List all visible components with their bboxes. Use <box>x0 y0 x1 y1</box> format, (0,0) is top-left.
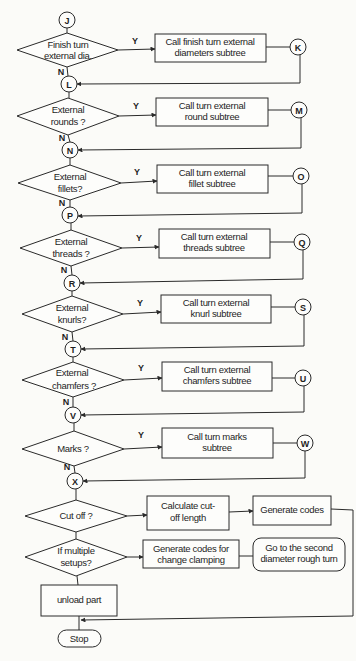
svg-text:Finish turn: Finish turn <box>47 39 88 50</box>
flowchart-canvas: J Finish turn external dia. Y Call finis… <box>0 0 356 661</box>
svg-text:Calculate cut-: Calculate cut- <box>161 500 215 511</box>
connector-w: W <box>297 435 313 451</box>
decision-multiple-setups: If multiple setups? <box>25 539 127 576</box>
svg-text:Generate codes for: Generate codes for <box>153 543 229 554</box>
svg-text:knurls?: knurls? <box>58 314 87 325</box>
no-label: N <box>62 332 69 342</box>
svg-text:External: External <box>56 302 89 313</box>
connector-m: M <box>291 102 307 118</box>
decision-cut-off: Cut off ? <box>25 500 127 532</box>
svg-text:Marks ?: Marks ? <box>57 443 89 454</box>
decision-external-knurls: External knurls? <box>22 296 123 332</box>
svg-text:Call finish turn external: Call finish turn external <box>165 36 254 47</box>
connector-k: K <box>290 39 306 55</box>
svg-text:Call turn external: Call turn external <box>179 100 246 111</box>
svg-text:setups?: setups? <box>60 557 91 568</box>
connector-p: P <box>62 207 78 223</box>
svg-text:rounds ?: rounds ? <box>51 116 86 127</box>
yes-label: Y <box>132 36 138 46</box>
decision-marks: Marks ? <box>22 431 124 466</box>
svg-text:Cut off ?: Cut off ? <box>59 510 92 521</box>
svg-text:chamfers ?: chamfers ? <box>52 380 96 391</box>
svg-text:Call turn external: Call turn external <box>181 231 248 242</box>
svg-text:change clamping: change clamping <box>157 554 224 565</box>
yes-label: Y <box>138 363 144 373</box>
svg-text:V: V <box>70 411 76 421</box>
svg-text:R: R <box>69 279 76 289</box>
svg-text:Stop: Stop <box>70 633 88 644</box>
svg-text:W: W <box>301 439 310 449</box>
yes-label: Y <box>133 101 139 111</box>
action-generate-codes: Generate codes <box>253 496 331 525</box>
svg-text:S: S <box>300 303 306 313</box>
svg-text:External: External <box>55 236 88 247</box>
svg-text:T: T <box>70 345 76 355</box>
yes-label: Y <box>137 298 143 308</box>
svg-text:chamfers subtree: chamfers subtree <box>183 375 252 386</box>
action-call-turn-external-chamfers: Call turn external chamfers subtree <box>162 362 272 391</box>
svg-text:external dia.: external dia. <box>44 50 92 61</box>
svg-text:Call turn external: Call turn external <box>183 297 250 308</box>
svg-text:N: N <box>67 146 74 156</box>
svg-text:off length: off length <box>170 512 206 523</box>
action-call-turn-external-threads: Call turn external threads subtree <box>159 229 270 258</box>
no-label: N <box>58 67 65 77</box>
svg-text:Call turn external: Call turn external <box>184 364 251 375</box>
svg-text:diameters subtree: diameters subtree <box>175 47 246 58</box>
connector-l: L <box>61 76 77 92</box>
svg-text:P: P <box>67 211 73 221</box>
decision-finish-turn-external-dia: Finish turn external dia. <box>17 33 118 67</box>
decision-external-chamfers: External chamfers ? <box>22 362 124 397</box>
action-unload-part: unload part <box>41 585 117 616</box>
no-label: N <box>59 198 66 208</box>
connector-r: R <box>64 275 80 291</box>
terminal-stop: Stop <box>58 630 101 647</box>
action-call-finish-turn-external-diameters: Call finish turn external diameters subt… <box>155 34 266 62</box>
svg-text:Q: Q <box>298 238 305 248</box>
connector-t: T <box>65 341 81 357</box>
connector-v: V <box>65 407 81 423</box>
svg-text:fillet subtree: fillet subtree <box>188 178 235 189</box>
action-call-turn-external-knurl: Call turn external knurl subtree <box>161 295 271 323</box>
svg-text:unload part: unload part <box>57 594 102 605</box>
connector-o: O <box>293 168 309 184</box>
terminal-goto-second-diameter-rough-turn: Go to the second diameter rough turn <box>253 538 345 571</box>
svg-text:L: L <box>66 80 72 90</box>
svg-text:threads ?: threads ? <box>53 248 90 259</box>
action-call-turn-external-fillet: Call turn external fillet subtree <box>157 165 268 193</box>
svg-text:Call turn marks: Call turn marks <box>187 431 247 442</box>
svg-text:Call turn external: Call turn external <box>179 167 246 178</box>
action-call-turn-external-round: Call turn external round subtree <box>156 98 268 126</box>
connector-j: J <box>59 12 75 28</box>
no-label: N <box>64 462 71 472</box>
no-label: N <box>63 397 70 407</box>
svg-text:If multiple: If multiple <box>57 545 94 556</box>
yes-label: Y <box>136 233 142 243</box>
decision-external-rounds: External rounds ? <box>17 98 119 135</box>
svg-text:M: M <box>295 106 303 116</box>
svg-text:X: X <box>72 477 78 487</box>
svg-text:U: U <box>300 374 307 384</box>
svg-text:External: External <box>52 104 85 115</box>
svg-text:External: External <box>54 171 87 182</box>
connector-u: U <box>295 370 311 386</box>
svg-text:Generate codes: Generate codes <box>260 504 324 515</box>
yes-label: Y <box>138 430 144 440</box>
action-calculate-cut-off-length: Calculate cut- off length <box>147 496 229 530</box>
connector-n: N <box>62 142 78 158</box>
svg-text:K: K <box>295 43 302 53</box>
decision-external-threads: External threads ? <box>20 230 122 266</box>
no-label: N <box>59 133 66 143</box>
action-call-turn-marks: Call turn marks subtree <box>162 428 273 458</box>
svg-text:Go to the second: Go to the second <box>265 542 333 553</box>
connector-s: S <box>295 299 311 315</box>
no-label: N <box>61 265 68 275</box>
connector-x: X <box>67 473 83 489</box>
connector-q: Q <box>294 234 310 250</box>
svg-text:subtree: subtree <box>202 442 232 453</box>
svg-text:threads subtree: threads subtree <box>183 242 245 253</box>
svg-text:External: External <box>56 367 89 378</box>
svg-text:diameter rough turn: diameter rough turn <box>260 553 337 564</box>
svg-text:O: O <box>297 172 304 182</box>
svg-text:fillets?: fillets? <box>58 183 83 194</box>
